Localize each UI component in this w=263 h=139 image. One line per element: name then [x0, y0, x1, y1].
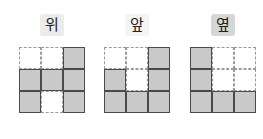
filled-cell [148, 69, 170, 91]
empty-cell [126, 69, 148, 91]
empty-cell [19, 47, 41, 69]
filled-cell [148, 47, 170, 69]
grid-front [104, 47, 170, 113]
view-side: 옆 [190, 0, 256, 139]
filled-cell [234, 91, 256, 113]
filled-cell [63, 47, 85, 69]
filled-cell [41, 69, 63, 91]
filled-cell [19, 69, 41, 91]
view-label-front: 앞 [125, 14, 149, 36]
empty-cell [212, 47, 234, 69]
empty-cell [126, 47, 148, 69]
empty-cell [212, 69, 234, 91]
empty-cell [41, 91, 63, 113]
empty-cell [104, 47, 126, 69]
filled-cell [63, 91, 85, 113]
view-front: 앞 [104, 0, 170, 139]
grid-side [190, 47, 256, 113]
filled-cell [104, 69, 126, 91]
filled-cell [19, 91, 41, 113]
view-label-side: 옆 [211, 14, 235, 36]
empty-cell [234, 69, 256, 91]
filled-cell [190, 91, 212, 113]
filled-cell [126, 91, 148, 113]
empty-cell [234, 47, 256, 69]
view-label-top: 위 [40, 14, 64, 36]
filled-cell [190, 69, 212, 91]
filled-cell [190, 47, 212, 69]
filled-cell [212, 91, 234, 113]
view-top: 위 [19, 0, 85, 139]
filled-cell [148, 91, 170, 113]
filled-cell [63, 69, 85, 91]
filled-cell [104, 91, 126, 113]
grid-top [19, 47, 85, 113]
empty-cell [41, 47, 63, 69]
